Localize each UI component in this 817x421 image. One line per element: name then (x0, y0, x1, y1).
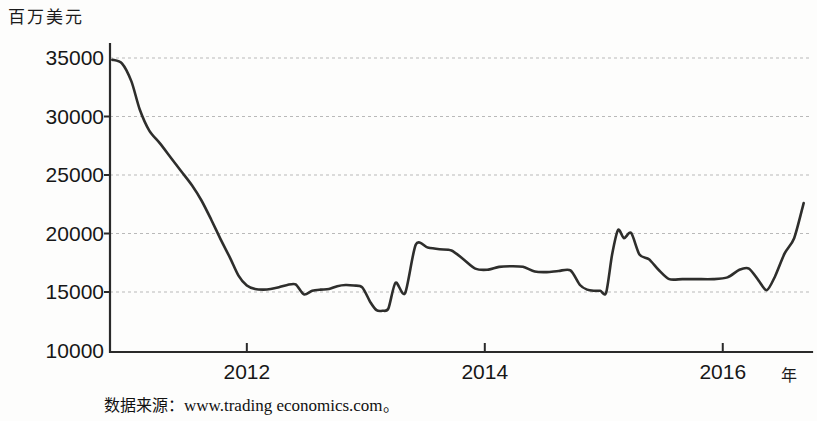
source-note: 数据来源：www.trading economics.com。 (104, 392, 399, 416)
source-url-text: www.trading economics.com (184, 396, 383, 415)
axis-frame (110, 44, 812, 352)
source-prefix-text: 数据来源： (104, 396, 184, 415)
data-series-line (112, 60, 803, 311)
tick-mark-group (104, 117, 723, 353)
source-suffix-text: 。 (383, 396, 399, 415)
plot-area (0, 0, 817, 421)
chart-figure: 百万美元 350003000025000200001500010000 2012… (0, 0, 817, 421)
